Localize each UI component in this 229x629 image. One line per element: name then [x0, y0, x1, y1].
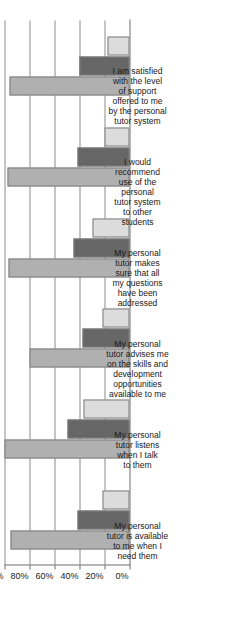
category-label: My personal tutor listens when I talk to…	[95, 429, 179, 469]
axis-tick-label: 0%	[82, 570, 128, 580]
bar	[107, 36, 130, 55]
category-label: My personal tutor is available to me whe…	[95, 520, 179, 560]
axis-tick	[4, 565, 5, 569]
axis-tick	[129, 565, 130, 569]
bar	[102, 490, 130, 509]
bar	[83, 399, 129, 418]
axis-tick	[104, 565, 105, 569]
bar	[102, 308, 130, 327]
chart-stage: 100%80%60%40%20%0% My personal tutor is …	[0, 0, 229, 629]
category-label: My personal tutor advises me on the skil…	[95, 338, 179, 398]
bar-chart: 100%80%60%40%20%0% My personal tutor is …	[0, 0, 229, 629]
axis-tick	[79, 565, 80, 569]
axis-tick	[54, 565, 55, 569]
category-label: I would recommend use of the personal tu…	[95, 156, 179, 226]
axis-tick	[29, 565, 30, 569]
bar	[104, 127, 129, 146]
chart-viewport: 100%80%60%40%20%0% My personal tutor is …	[0, 0, 229, 629]
category-label: I am satisfied with the level of support…	[95, 65, 179, 125]
category-label: My personal tutor makes sure that all my…	[95, 247, 179, 307]
